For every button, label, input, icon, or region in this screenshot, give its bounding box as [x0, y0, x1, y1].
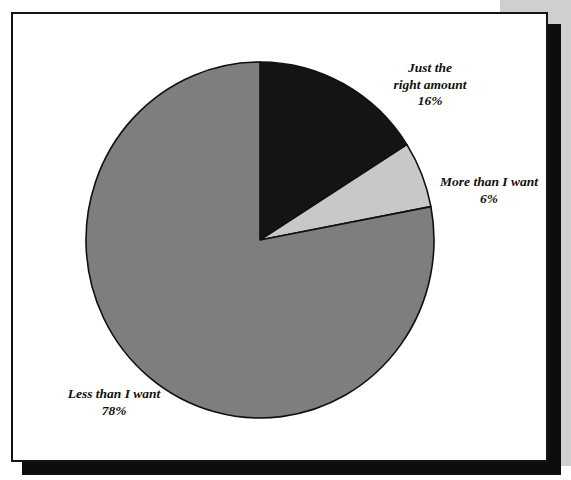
- pie-label-just-the-right-amount: Just the right amount 16%: [374, 60, 486, 110]
- pie-label-line1: Just the: [374, 60, 486, 77]
- pie-label-line1: More than I want: [430, 174, 548, 191]
- pie-label-value: 78%: [44, 403, 184, 420]
- pie-label-line1: Less than I want: [44, 386, 184, 403]
- screenshot-root: Just the right amount 16% More than I wa…: [0, 0, 571, 480]
- pie-slices-group: [86, 62, 434, 418]
- pie-chart: Just the right amount 16% More than I wa…: [0, 0, 571, 480]
- pie-label-line2: right amount: [374, 77, 486, 94]
- pie-label-value: 16%: [374, 93, 486, 110]
- pie-label-value: 6%: [430, 191, 548, 208]
- pie-label-more-than-i-want: More than I want 6%: [430, 174, 548, 207]
- pie-label-less-than-i-want: Less than I want 78%: [44, 386, 184, 419]
